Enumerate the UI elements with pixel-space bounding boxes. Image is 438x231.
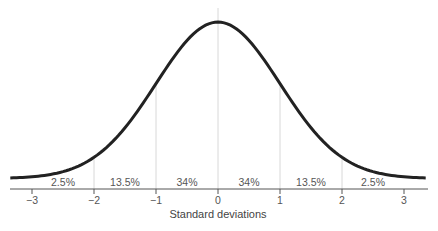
region-percent-label: 34% (176, 176, 197, 188)
region-percent-label: 13.5% (296, 176, 326, 188)
normal-distribution-chart: −3−2−10123 2.5%13.5%34%34%13.5%2.5% Stan… (0, 0, 438, 231)
x-tick-label: −3 (26, 194, 38, 206)
x-axis-title: Standard deviations (169, 208, 267, 220)
region-percent-label: 2.5% (51, 176, 75, 188)
x-tick-label: 3 (401, 194, 407, 206)
region-percent-label: 34% (238, 176, 259, 188)
x-tick-label: −2 (88, 194, 100, 206)
x-tick-label: 1 (277, 194, 283, 206)
region-percent-label: 2.5% (361, 176, 385, 188)
x-tick-label: 2 (339, 194, 345, 206)
x-tick-label: 0 (215, 194, 221, 206)
x-axis-ticks: −3−2−10123 (26, 189, 407, 206)
reference-lines (94, 8, 342, 189)
region-percent-label: 13.5% (110, 176, 140, 188)
x-tick-label: −1 (150, 194, 162, 206)
